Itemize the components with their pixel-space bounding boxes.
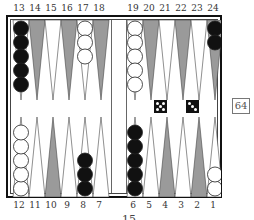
- white-checker[interactable]: [208, 167, 222, 182]
- point-15[interactable]: [45, 20, 61, 100]
- point-label: 23: [189, 3, 205, 13]
- doubling-cube[interactable]: 64: [232, 98, 250, 114]
- die-pip: [156, 108, 159, 111]
- white-checker[interactable]: [14, 125, 29, 140]
- point-label: 22: [173, 3, 189, 13]
- point-label: 7: [91, 200, 107, 210]
- black-checker[interactable]: [128, 181, 143, 196]
- point-5[interactable]: [143, 117, 159, 197]
- point-label: 8: [75, 200, 91, 210]
- die-pip: [194, 108, 197, 111]
- black-checker[interactable]: [128, 125, 143, 140]
- point-label: 18: [91, 3, 107, 13]
- white-checker[interactable]: [78, 49, 93, 64]
- point-16[interactable]: [61, 20, 77, 100]
- white-checker[interactable]: [128, 63, 143, 78]
- point-3[interactable]: [175, 117, 191, 197]
- black-checker[interactable]: [14, 49, 29, 64]
- black-checker[interactable]: [128, 153, 143, 168]
- white-checker[interactable]: [208, 181, 222, 196]
- black-checker[interactable]: [78, 153, 93, 168]
- black-checker[interactable]: [128, 139, 143, 154]
- point-label: 6: [125, 200, 141, 210]
- black-checker[interactable]: [128, 167, 143, 182]
- point-20[interactable]: [143, 20, 159, 100]
- point-7[interactable]: [93, 117, 109, 197]
- white-checker[interactable]: [78, 21, 93, 36]
- point-11[interactable]: [29, 117, 45, 197]
- point-4[interactable]: [159, 117, 175, 197]
- board-bar[interactable]: [111, 20, 127, 193]
- die-pip: [162, 108, 165, 111]
- die-1[interactable]: [154, 100, 167, 113]
- point-10[interactable]: [45, 117, 61, 197]
- black-checker[interactable]: [14, 21, 29, 36]
- white-checker[interactable]: [128, 77, 143, 92]
- point-label: 4: [157, 200, 173, 210]
- point-label: 2: [189, 200, 205, 210]
- point-9[interactable]: [61, 117, 77, 197]
- point-18[interactable]: [93, 20, 109, 100]
- point-label: 13: [11, 3, 27, 13]
- point-label: 14: [27, 3, 43, 13]
- point-label: 9: [59, 200, 75, 210]
- black-checker[interactable]: [14, 63, 29, 78]
- point-21[interactable]: [159, 20, 175, 100]
- point-label: 10: [43, 200, 59, 210]
- point-label: 1: [205, 200, 221, 210]
- point-22[interactable]: [175, 20, 191, 100]
- black-checker[interactable]: [208, 21, 222, 36]
- black-checker[interactable]: [14, 77, 29, 92]
- white-checker[interactable]: [128, 49, 143, 64]
- point-label: 17: [75, 3, 91, 13]
- pip-count-text: 15: [122, 213, 136, 220]
- point-label: 11: [27, 200, 43, 210]
- white-checker[interactable]: [128, 21, 143, 36]
- white-checker[interactable]: [128, 35, 143, 50]
- black-checker[interactable]: [78, 181, 93, 196]
- white-checker[interactable]: [14, 181, 29, 196]
- point-label: 20: [141, 3, 157, 13]
- white-checker[interactable]: [14, 153, 29, 168]
- point-label: 12: [11, 200, 27, 210]
- point-23[interactable]: [191, 20, 207, 100]
- point-label: 16: [59, 3, 75, 13]
- white-checker[interactable]: [14, 139, 29, 154]
- point-2[interactable]: [191, 117, 207, 197]
- point-label: 15: [43, 3, 59, 13]
- white-checker[interactable]: [14, 167, 29, 182]
- point-14[interactable]: [29, 20, 45, 100]
- black-checker[interactable]: [208, 35, 222, 50]
- point-label: 3: [173, 200, 189, 210]
- point-label: 24: [205, 3, 221, 13]
- point-label: 19: [125, 3, 141, 13]
- point-label: 5: [141, 200, 157, 210]
- black-checker[interactable]: [14, 35, 29, 50]
- die-pip: [162, 102, 165, 105]
- point-label: 21: [157, 3, 173, 13]
- die-2[interactable]: [186, 100, 199, 113]
- white-checker[interactable]: [78, 35, 93, 50]
- black-checker[interactable]: [78, 167, 93, 182]
